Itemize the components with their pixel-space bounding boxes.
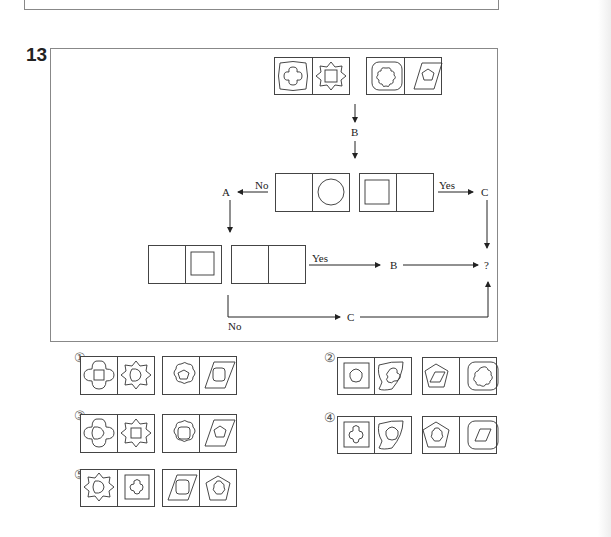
choice-2-label[interactable]: ② <box>324 350 336 366</box>
choice-4-label[interactable]: ④ <box>324 410 336 426</box>
decision1-yes-label: Yes <box>439 179 455 191</box>
operation-b-top: B <box>351 126 358 138</box>
input-shapes <box>274 57 474 97</box>
decision1-yes-target: C <box>481 186 488 198</box>
choice-4-shapes <box>337 416 507 456</box>
decision1-no-label: No <box>255 179 268 191</box>
decision2-shapes <box>148 245 228 285</box>
choice-2-shapes <box>337 357 507 397</box>
divider <box>268 245 269 284</box>
decision2-no-label: No <box>228 320 241 332</box>
decision2-yes-label: Yes <box>312 252 328 264</box>
result-placeholder: ? <box>484 259 489 271</box>
choice-3-shapes <box>80 414 240 454</box>
choice-1-shapes <box>80 356 240 396</box>
choice-5-shapes <box>80 469 240 509</box>
decision1-no-target: A <box>222 186 230 198</box>
decision2-no-target: C <box>347 311 354 323</box>
decision2-yes-target: B <box>390 259 397 271</box>
